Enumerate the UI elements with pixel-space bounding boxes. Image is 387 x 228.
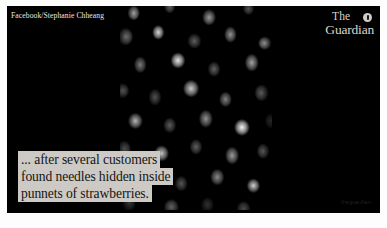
masthead-line-guardian: Guardian	[325, 23, 374, 37]
caption-line: found needles hidden inside	[18, 168, 173, 185]
corner-watermark: theguardian	[341, 199, 371, 205]
video-screenshot-page: Facebook/Stephanie Chheang The Guardian …	[0, 0, 387, 228]
caption-overlay: ... after several customers found needle…	[18, 151, 173, 202]
caption-line: punnets of strawberries.	[18, 185, 152, 202]
source-credit: Facebook/Stephanie Chheang	[11, 11, 104, 21]
guardian-masthead: The Guardian	[325, 11, 374, 36]
masthead-line-the: The	[325, 11, 357, 23]
video-media-frame[interactable]: Facebook/Stephanie Chheang The Guardian …	[7, 6, 380, 213]
badge-pip	[367, 15, 369, 20]
info-badge-icon	[363, 13, 372, 22]
caption-line: ... after several customers	[18, 151, 160, 168]
